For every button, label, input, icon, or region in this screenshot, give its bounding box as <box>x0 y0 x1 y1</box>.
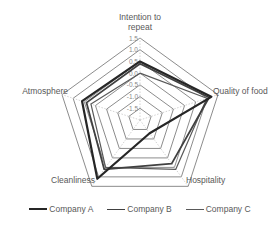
legend-label: Company A <box>49 204 93 214</box>
grid-spoke <box>140 120 188 186</box>
legend-item-company-a: Company A <box>29 204 93 214</box>
tick-label: 1.5 <box>129 35 138 42</box>
tick-label: -1.5 <box>127 105 139 112</box>
axis-label-quality-of-food: Quality of food <box>213 86 268 96</box>
axis-label-atmosphere: Atmosphere <box>22 86 68 96</box>
radar-series <box>82 61 211 178</box>
legend-label: Company B <box>127 204 171 214</box>
axis-label-intention-to-repeat: Intention torepeat <box>119 12 161 32</box>
grid-ring <box>118 97 163 139</box>
axis-label-cleanliness: Cleanliness <box>51 175 95 185</box>
tick-label: -0.5 <box>127 81 139 88</box>
legend-swatch-company-a <box>29 208 47 210</box>
radar-spokes <box>62 38 218 186</box>
legend-swatch-company-b <box>107 209 125 210</box>
grid-ring <box>62 38 218 186</box>
tick-label: -1.0 <box>127 93 139 100</box>
chart-legend: Company A Company B Company C <box>0 204 280 214</box>
radar-chart: -1.5-1.0-0.50.00.51.01.5 Intention torep… <box>0 0 280 230</box>
legend-label: Company C <box>206 204 251 214</box>
tick-label: 1.0 <box>129 46 138 53</box>
radar-grid <box>62 38 218 186</box>
legend-item-company-b: Company B <box>107 204 171 214</box>
radar-axis-labels: Intention torepeatQuality of foodHospita… <box>22 12 268 185</box>
axis-label-hospitality: Hospitality <box>186 175 226 185</box>
legend-swatch-company-c <box>186 209 204 210</box>
legend-item-company-c: Company C <box>186 204 251 214</box>
